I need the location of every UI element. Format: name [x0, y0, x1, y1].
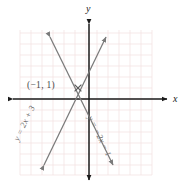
grid-lines — [20, 30, 152, 175]
coordinate-graph-figure: y x (−1, 1) y = 2x + 3 y = −2x − 1 — [0, 0, 184, 188]
axis-label-x: x — [173, 94, 177, 104]
axis-label-y: y — [86, 4, 90, 14]
intersection-point-label: (−1, 1) — [27, 81, 55, 91]
graph-canvas — [0, 0, 184, 188]
